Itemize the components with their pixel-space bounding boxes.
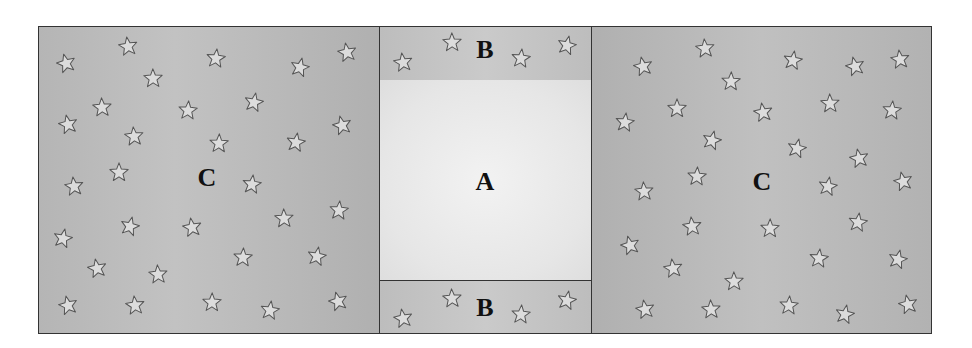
star-icon bbox=[556, 289, 578, 311]
star-icon bbox=[201, 291, 223, 313]
star-icon bbox=[147, 263, 169, 285]
label-b-bottom: B bbox=[476, 293, 493, 323]
label-c-right: C bbox=[753, 167, 772, 197]
star-icon bbox=[181, 216, 203, 238]
star-icon bbox=[336, 41, 358, 63]
star-icon bbox=[510, 303, 532, 325]
star-icon bbox=[848, 147, 870, 169]
star-icon bbox=[633, 180, 655, 202]
star-icon bbox=[441, 31, 463, 53]
star-icon bbox=[55, 52, 77, 74]
star-icon bbox=[208, 132, 230, 154]
star-icon bbox=[819, 92, 841, 114]
star-icon bbox=[327, 290, 349, 312]
star-icon bbox=[686, 165, 708, 187]
star-icon bbox=[808, 247, 830, 269]
star-icon bbox=[289, 56, 311, 78]
star-icon bbox=[817, 175, 839, 197]
star-icon bbox=[720, 70, 742, 92]
star-icon bbox=[662, 257, 684, 279]
label-a: A bbox=[476, 167, 495, 197]
star-icon bbox=[331, 114, 353, 136]
star-icon bbox=[847, 211, 869, 233]
star-icon bbox=[786, 137, 808, 159]
star-icon bbox=[887, 248, 909, 270]
star-icon bbox=[681, 215, 703, 237]
star-icon bbox=[205, 47, 227, 69]
star-icon bbox=[556, 34, 578, 56]
star-icon bbox=[91, 96, 113, 118]
star-icon bbox=[392, 51, 414, 73]
star-icon bbox=[123, 125, 145, 147]
star-icon bbox=[844, 55, 866, 77]
star-icon bbox=[694, 37, 716, 59]
star-icon bbox=[701, 129, 723, 151]
star-icon bbox=[306, 245, 328, 267]
star-icon bbox=[614, 111, 636, 133]
star-icon bbox=[52, 227, 74, 249]
star-icon bbox=[889, 48, 911, 70]
star-icon bbox=[177, 99, 199, 121]
star-icon bbox=[232, 246, 254, 268]
star-icon bbox=[241, 173, 263, 195]
star-icon bbox=[881, 99, 903, 121]
star-icon bbox=[392, 307, 414, 329]
star-icon bbox=[108, 161, 130, 183]
star-icon bbox=[259, 299, 281, 321]
star-icon bbox=[510, 47, 532, 69]
star-icon bbox=[632, 55, 654, 77]
star-icon bbox=[782, 49, 804, 71]
star-icon bbox=[897, 293, 919, 315]
star-icon bbox=[63, 175, 85, 197]
star-icon bbox=[441, 287, 463, 309]
star-icon bbox=[634, 298, 656, 320]
star-icon bbox=[119, 215, 141, 237]
star-icon bbox=[273, 207, 295, 229]
star-icon bbox=[723, 270, 745, 292]
star-icon bbox=[666, 97, 688, 119]
star-icon bbox=[759, 217, 781, 239]
star-icon bbox=[117, 35, 139, 57]
star-icon bbox=[892, 170, 914, 192]
star-icon bbox=[57, 294, 79, 316]
star-icon bbox=[834, 303, 856, 325]
star-icon bbox=[700, 298, 722, 320]
star-icon bbox=[86, 257, 108, 279]
label-b-top: B bbox=[476, 35, 493, 65]
star-icon bbox=[57, 113, 79, 135]
star-icon bbox=[124, 294, 146, 316]
star-icon bbox=[285, 131, 307, 153]
star-icon bbox=[328, 199, 350, 221]
star-icon bbox=[752, 101, 774, 123]
star-icon bbox=[619, 234, 641, 256]
star-icon bbox=[243, 91, 265, 113]
star-icon bbox=[142, 67, 164, 89]
label-c-left: C bbox=[198, 163, 217, 193]
star-icon bbox=[778, 294, 800, 316]
